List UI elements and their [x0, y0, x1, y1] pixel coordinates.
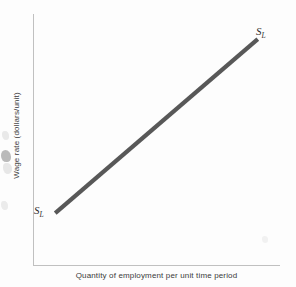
supply-label-lower-subscript: L [40, 210, 44, 219]
labor-supply-curve-figure: SL SL Wage rate (dollars/unit) Quantity … [0, 0, 296, 287]
supply-label-lower: SL [34, 205, 44, 219]
scan-artifact-smudge [1, 150, 11, 162]
scan-artifact-smudge [1, 201, 8, 210]
supply-curve-svg [33, 14, 280, 266]
supply-label-upper-subscript: L [262, 31, 266, 40]
supply-label-upper: SL [256, 26, 266, 40]
x-axis-title: Quantity of employment per unit time per… [33, 271, 280, 280]
plot-area [33, 14, 280, 266]
y-axis-title: Wage rate (dollars/unit) [12, 56, 21, 216]
supply-curve-line [55, 39, 258, 213]
scan-artifact-smudge [2, 131, 9, 140]
